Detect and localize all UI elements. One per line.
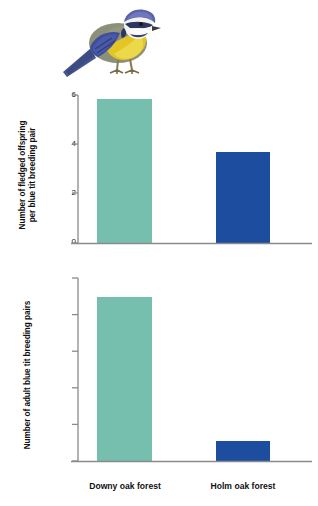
y-axis-label-bottom: Number of adult blue tit breeding pairs [23, 280, 35, 470]
chart-panel-fledged-offspring: Number of fledged offspring per blue tit… [0, 0, 318, 262]
bar-holm-oak-forest [216, 441, 270, 461]
plot-area-top [0, 0, 318, 262]
x-axis-category-label-holm-oak-forest: Holm oak forest [185, 481, 301, 491]
figure-blue-tit-breeding: Number of fledged offspring per blue tit… [0, 0, 318, 506]
bar-downy-oak-forest [97, 297, 152, 461]
x-axis-category-label-downy-oak-forest: Downy oak forest [65, 481, 185, 491]
plot-area-bottom [0, 262, 318, 506]
chart-panel-adult-pairs: 100 80 60 40 20 0 [0, 262, 318, 506]
bar-holm-oak-forest [216, 152, 270, 243]
bar-downy-oak-forest [97, 99, 152, 243]
